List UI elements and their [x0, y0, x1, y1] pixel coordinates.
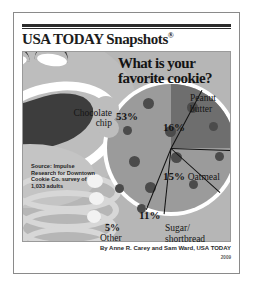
fingernail-3 — [87, 210, 101, 223]
label-peanut-butter-line2: butter — [190, 104, 234, 115]
fingernail-2 — [89, 192, 104, 205]
masthead-rules — [22, 24, 231, 29]
value-other: 5% — [105, 222, 120, 233]
label-peanut-butter: Peanut butter — [190, 93, 234, 114]
label-oatmeal-name: Oatmeal — [188, 172, 220, 182]
label-chocolate-chip-line2: chip — [60, 118, 112, 128]
label-sugar-line1: Sugar/ — [165, 223, 213, 234]
rule-thick — [22, 24, 231, 27]
value-peanut-butter: 16% — [163, 121, 185, 133]
label-oatmeal: 15% Oatmeal — [163, 170, 220, 182]
value-sugar-shortbread: 11% — [139, 209, 160, 221]
registered-mark-icon: ® — [168, 31, 174, 40]
brand-title: USA TODAY Snapshots® — [22, 31, 232, 48]
chocolate-chip-dot — [209, 122, 218, 131]
chocolate-chip-dot — [129, 156, 140, 167]
chocolate-chip-dot — [215, 152, 224, 161]
rule-thin — [22, 28, 231, 29]
label-chocolate-chip-line1: Chocolate — [60, 108, 112, 118]
brand-name: USA TODAY Snapshots — [22, 31, 168, 47]
label-other: Other — [100, 233, 122, 243]
page-title: What is your favorite cookie? — [118, 56, 234, 86]
value-chocolate-chip: 53% — [116, 110, 138, 122]
value-oatmeal: 15% — [163, 170, 185, 182]
headline-line-1: What is your — [118, 56, 234, 71]
source-note: Source: Impulse Research for Downtown Co… — [31, 163, 97, 189]
copyright-year: 2009 — [22, 255, 231, 260]
chocolate-chip-dot — [123, 126, 132, 135]
label-sugar-shortbread: Sugar/ shortbread — [165, 223, 213, 244]
label-peanut-butter-line1: Peanut — [190, 93, 234, 104]
label-chocolate-chip: Chocolate chip — [60, 108, 112, 128]
label-sugar-line2: shortbread — [165, 234, 213, 245]
byline: By Anne R. Carey and Sam Ward, USA TODAY — [22, 245, 231, 251]
snapshot-infographic: USA TODAY Snapshots® — [0, 0, 253, 287]
chocolate-chip-dot — [115, 184, 124, 193]
chocolate-chip-dot — [143, 98, 154, 109]
headline-line-2: favorite cookie? — [118, 71, 234, 86]
